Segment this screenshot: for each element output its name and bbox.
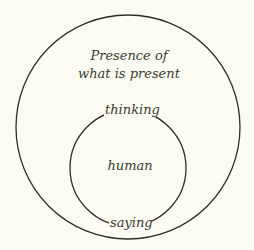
inner-label-human: human bbox=[104, 159, 156, 173]
top-label-thinking: thinking bbox=[104, 103, 156, 117]
outer-label-line2: what is present bbox=[73, 67, 185, 81]
bottom-label-saying: saying bbox=[109, 216, 151, 230]
outer-label-line1: Presence of bbox=[83, 49, 175, 63]
circle-diagram bbox=[0, 0, 254, 250]
